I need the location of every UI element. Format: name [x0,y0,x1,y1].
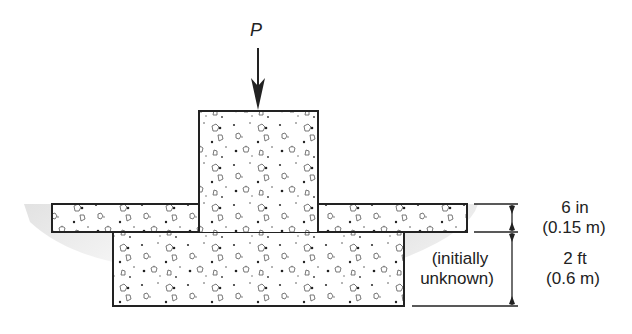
slab-dim-metric: (0.15 m) [524,218,624,238]
footing-dim-imperial: 2 ft [540,249,610,269]
slab-dim-imperial: 6 in [540,198,610,218]
footing-dim-metric: (0.6 m) [528,269,618,289]
slab-left [52,204,199,232]
load-arrow-icon [251,48,265,110]
footing-note-line1: (initially [410,249,510,269]
column [199,111,318,232]
footing [113,232,404,306]
slab-right [318,204,467,232]
load-label: P [250,20,262,41]
footing-note-line2: unknown) [407,269,507,289]
